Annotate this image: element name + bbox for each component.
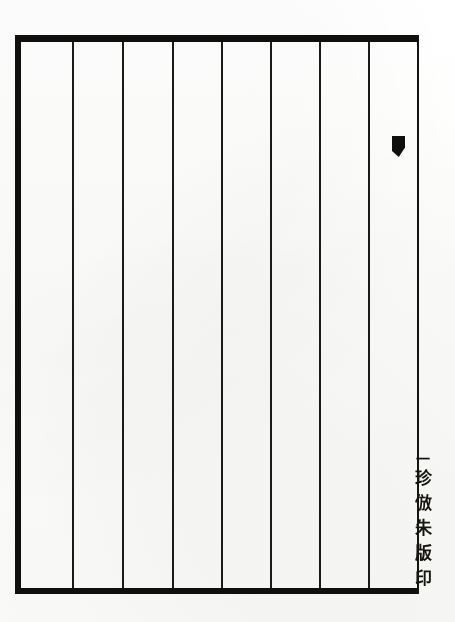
colophon-char-1: 珍 — [412, 466, 434, 490]
column-rule — [319, 42, 321, 588]
page-frame — [15, 35, 419, 594]
frame-left-rule — [15, 35, 21, 594]
colophon-char-2: 倣 — [412, 491, 434, 515]
column-rule — [72, 42, 74, 588]
frame-top-rule — [15, 35, 419, 42]
colophon-char-5: 印 — [412, 566, 434, 590]
frame-bottom-rule — [15, 588, 419, 594]
colophon-tick: 一 — [412, 452, 434, 465]
colophon-char-3: 朱 — [412, 516, 434, 540]
column-rule — [221, 42, 223, 588]
colophon-char-4: 版 — [412, 541, 434, 565]
document-page: 一 珍 倣 朱 版 印 — [0, 0, 455, 622]
vertical-colophon: 一 珍 倣 朱 版 印 — [408, 452, 438, 590]
column-rule — [368, 42, 370, 588]
column-rule — [270, 42, 272, 588]
column-rule — [122, 42, 124, 588]
column-rule — [172, 42, 174, 588]
